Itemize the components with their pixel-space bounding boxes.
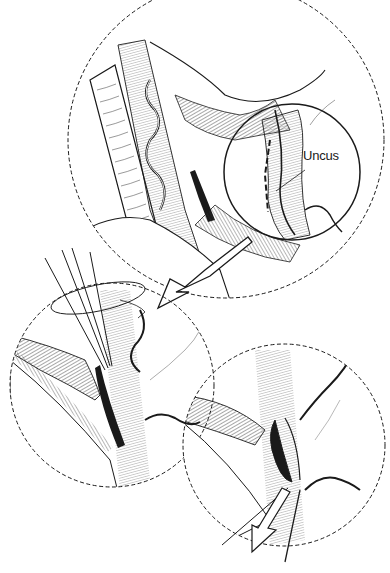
uncus-label: Uncus <box>303 148 339 163</box>
illustration-canvas: Uncus <box>0 0 390 573</box>
bottom-panel <box>180 344 385 562</box>
illustration-svg <box>0 0 390 573</box>
rotation-indicator <box>48 275 147 320</box>
